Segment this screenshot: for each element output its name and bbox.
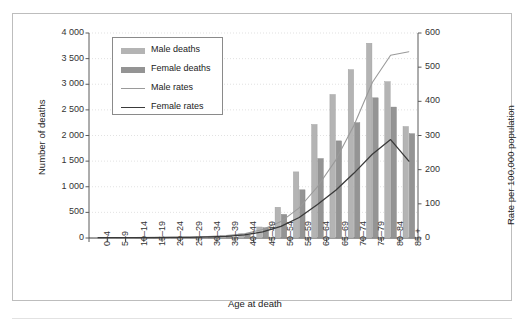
x-axis-tick-label: 85 + <box>413 228 423 246</box>
legend-label-female-rates: Female rates <box>151 101 204 111</box>
chart-legend: Male deaths Female deaths Male rates Fem… <box>112 37 223 115</box>
y2-axis-tick-label: 500 <box>425 61 440 71</box>
bar-male-deaths <box>92 237 97 238</box>
bar-male-deaths <box>385 82 390 238</box>
y2-axis-tick-label: 600 <box>425 27 440 37</box>
y-axis-tick-label: 0 <box>44 232 84 242</box>
x-axis-tick-label: 0–4 <box>102 231 112 246</box>
x-axis-tick-label: 75–79 <box>376 221 386 246</box>
x-axis-tick-label: 80–84 <box>395 221 405 246</box>
x-axis-tick-label: 30–34 <box>212 221 222 246</box>
x-axis-tick-label: 20–24 <box>175 221 185 246</box>
bar-male-deaths <box>366 43 371 238</box>
y-axis-tick-label: 2 000 <box>44 130 84 140</box>
legend-swatch-female-deaths <box>121 67 145 73</box>
x-axis-tick-label: 65–69 <box>340 221 350 246</box>
bar-female-deaths <box>391 107 396 238</box>
y-axis-tick-label: 2 500 <box>44 104 84 114</box>
y2-axis-title: Rate per 100,000 population <box>505 105 516 225</box>
y-axis-tick-label: 3 000 <box>44 78 84 88</box>
x-axis-tick-label: 5–9 <box>120 231 130 246</box>
legend-line-male-rates <box>121 88 145 89</box>
legend-label-female-deaths: Female deaths <box>151 63 211 73</box>
y2-axis-tick-label: 400 <box>425 95 440 105</box>
x-axis-tick-label: 15–19 <box>157 221 167 246</box>
y-axis-tick-label: 3 500 <box>44 53 84 63</box>
y2-axis-tick-label: 100 <box>425 198 440 208</box>
x-axis-tick-label: 35–39 <box>230 221 240 246</box>
y2-axis-tick-label: 0 <box>425 232 430 242</box>
x-axis-tick-label: 25–29 <box>194 221 204 246</box>
bar-female-deaths <box>409 134 414 238</box>
y-axis-tick-label: 1 000 <box>44 181 84 191</box>
bar-female-deaths <box>373 98 378 238</box>
x-axis-title: Age at death <box>228 298 282 309</box>
x-axis-tick-label: 70–74 <box>358 221 368 246</box>
legend-label-male-rates: Male rates <box>151 82 193 92</box>
bar-male-deaths <box>348 70 353 238</box>
x-axis-tick-label: 60–64 <box>321 221 331 246</box>
y-axis-tick-label: 500 <box>44 206 84 216</box>
legend-label-male-deaths: Male deaths <box>151 44 200 54</box>
y-axis-tick-label: 4 000 <box>44 27 84 37</box>
y-axis-tick-label: 1 500 <box>44 155 84 165</box>
x-axis-tick-label: 55–59 <box>303 221 313 246</box>
x-axis-tick-label: 45–49 <box>267 221 277 246</box>
y2-axis-tick-label: 200 <box>425 164 440 174</box>
x-axis-tick-label: 40–44 <box>248 221 258 246</box>
legend-swatch-male-deaths <box>121 48 145 54</box>
legend-line-female-rates <box>121 107 145 108</box>
y2-axis-tick-label: 300 <box>425 130 440 140</box>
x-axis-tick-label: 10–14 <box>139 221 149 246</box>
bar-male-deaths <box>330 95 335 239</box>
x-axis-tick-label: 50–54 <box>285 221 295 246</box>
